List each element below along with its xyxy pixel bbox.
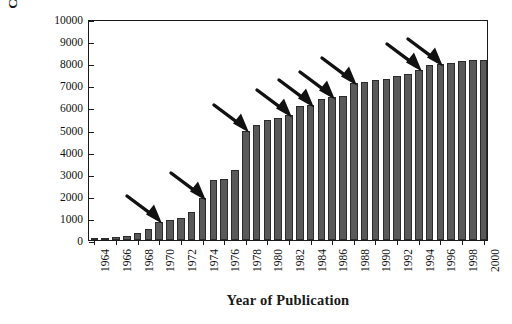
x-tick-mark	[246, 240, 247, 245]
y-tick-label: 1000	[7, 214, 83, 226]
bar	[134, 233, 142, 240]
bar	[350, 83, 358, 240]
x-tick-mark	[332, 240, 333, 245]
bar	[145, 229, 153, 240]
bar	[210, 180, 218, 240]
bar	[361, 82, 369, 240]
x-tick-label: 1974	[208, 249, 220, 272]
bar	[480, 60, 488, 240]
bar	[404, 74, 412, 240]
y-tick-mark	[89, 21, 94, 22]
bar	[231, 170, 239, 240]
x-tick-mark	[224, 240, 225, 245]
x-tick-mark	[484, 240, 485, 245]
y-tick-label: 9000	[7, 37, 83, 49]
bar	[447, 63, 455, 240]
x-tick-mark	[311, 240, 312, 245]
bar	[383, 79, 391, 240]
bar	[123, 236, 131, 240]
bar	[188, 212, 196, 240]
y-tick-mark	[89, 242, 94, 243]
bar	[166, 220, 174, 240]
bar	[274, 118, 282, 240]
x-tick-label: 2000	[489, 249, 501, 272]
bar	[264, 120, 272, 240]
x-tick-label: 1992	[402, 249, 414, 272]
x-tick-label: 1968	[143, 249, 155, 272]
x-tick-mark	[94, 240, 95, 245]
x-tick-label: 1980	[272, 249, 284, 272]
bar	[177, 218, 185, 240]
bar	[426, 65, 434, 240]
x-tick-label: 1990	[380, 249, 392, 272]
x-tick-label: 1964	[99, 249, 111, 272]
x-tick-mark	[397, 240, 398, 245]
y-tick-label: 8000	[7, 59, 83, 71]
y-tick-mark	[89, 109, 94, 110]
x-tick-mark	[462, 240, 463, 245]
x-tick-label: 1984	[316, 249, 328, 272]
bar	[285, 115, 293, 240]
bar	[220, 179, 228, 240]
bar	[155, 222, 163, 240]
y-tick-label: 2000	[7, 192, 83, 204]
y-tick-mark	[89, 65, 94, 66]
y-tick-label: 5000	[7, 126, 83, 138]
plot-area: 0100020003000400050006000700080009000100…	[88, 20, 488, 241]
x-tick-mark	[440, 240, 441, 245]
bar	[307, 105, 315, 240]
citation-bar-chart-figure: Cumulative Citations 0100020003000400050…	[0, 0, 512, 324]
x-tick-label: 1988	[359, 249, 371, 272]
bar	[458, 61, 466, 240]
bar	[242, 131, 250, 240]
x-tick-label: 1970	[164, 249, 176, 272]
bar	[393, 76, 401, 240]
y-tick-label: 10000	[7, 15, 83, 27]
x-tick-label: 1986	[337, 249, 349, 272]
x-tick-mark	[419, 240, 420, 245]
y-tick-label: 3000	[7, 170, 83, 182]
bar	[372, 80, 380, 240]
y-tick-label: 4000	[7, 148, 83, 160]
y-tick-mark	[89, 43, 94, 44]
x-tick-label: 1994	[424, 249, 436, 272]
bar	[339, 96, 347, 240]
x-tick-mark	[354, 240, 355, 245]
y-tick-mark	[89, 198, 94, 199]
bar	[415, 70, 423, 240]
bar	[437, 64, 445, 240]
y-tick-mark	[89, 87, 94, 88]
x-tick-mark	[267, 240, 268, 245]
y-tick-mark	[89, 132, 94, 133]
x-tick-label: 1996	[445, 249, 457, 272]
bar	[253, 125, 261, 240]
y-tick-mark	[89, 154, 94, 155]
x-tick-label: 1998	[467, 249, 479, 272]
x-tick-mark	[289, 240, 290, 245]
bar	[296, 106, 304, 240]
y-tick-mark	[89, 176, 94, 177]
y-tick-label: 6000	[7, 104, 83, 116]
x-tick-label: 1976	[229, 249, 241, 272]
bar	[112, 237, 120, 240]
x-tick-label: 1982	[294, 249, 306, 272]
x-tick-mark	[375, 240, 376, 245]
bar	[469, 60, 477, 240]
x-tick-mark	[159, 240, 160, 245]
bar	[318, 99, 326, 240]
bar	[199, 198, 207, 240]
x-axis-title: Year of Publication	[88, 292, 488, 309]
x-tick-mark	[116, 240, 117, 245]
y-tick-label: 7000	[7, 82, 83, 94]
x-tick-label: 1978	[251, 249, 263, 272]
y-tick-mark	[89, 220, 94, 221]
x-tick-label: 1972	[186, 249, 198, 272]
x-tick-mark	[138, 240, 139, 245]
bar	[91, 238, 99, 240]
bar	[328, 97, 336, 240]
x-tick-mark	[181, 240, 182, 245]
bar	[101, 238, 109, 240]
y-tick-label: 0	[7, 236, 83, 248]
x-tick-mark	[203, 240, 204, 245]
x-tick-label: 1966	[121, 249, 133, 272]
